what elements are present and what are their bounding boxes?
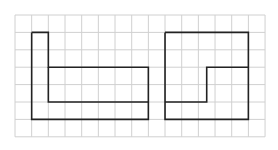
left-figure — [32, 32, 149, 119]
right-figure — [165, 32, 248, 119]
diagram-svg — [0, 0, 278, 150]
left-figure-outline — [32, 32, 149, 119]
shapes — [32, 32, 249, 119]
grid-diagram — [0, 0, 278, 150]
grid-lines — [15, 15, 265, 137]
